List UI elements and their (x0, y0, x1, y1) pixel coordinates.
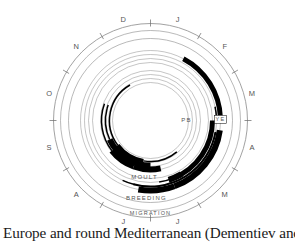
data-bar (123, 180, 135, 184)
data-bar (174, 121, 213, 178)
ring-label: BREEDING (126, 195, 167, 201)
month-label: O (46, 89, 52, 98)
month-label: M (222, 190, 228, 199)
month-label: S (47, 143, 52, 152)
ring-label: MOULT (131, 174, 158, 180)
data-bars (102, 59, 221, 191)
month-label: A (74, 190, 79, 199)
ring-label: YE (216, 116, 226, 122)
month-label: D (121, 15, 127, 24)
ring (113, 83, 189, 159)
annual-cycle-diagram: JFMAMJJASOND MOULTBREEDINGMIGRATIONPBYE (0, 0, 295, 226)
month-label: M (249, 89, 255, 98)
ring-label: PB (181, 117, 191, 123)
ring-label: MIGRATION (130, 210, 172, 216)
month-label: J (176, 15, 180, 24)
caption-text: Europe and round Mediterranean (Dementie… (3, 224, 295, 242)
data-bar (134, 167, 161, 170)
month-label: A (249, 143, 254, 152)
data-bar (110, 85, 130, 145)
month-label: N (74, 42, 79, 51)
month-label: F (222, 42, 227, 51)
